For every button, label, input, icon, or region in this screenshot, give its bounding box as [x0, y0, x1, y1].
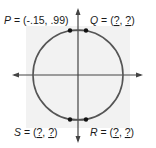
- point-S: [68, 117, 72, 121]
- y-axis-up-arrow-icon: [76, 8, 81, 15]
- label-Q: Q = (?, ?): [90, 14, 135, 26]
- point-Q: [84, 28, 88, 32]
- point-R: [84, 117, 88, 121]
- point-P: [68, 28, 72, 32]
- label-S: S = (?, ?): [14, 126, 58, 138]
- label-R: R = (?, ?): [90, 126, 134, 138]
- label-P: P = (-.15, .99): [4, 14, 69, 26]
- x-axis-left-arrow-icon: [12, 73, 19, 78]
- unit-circle-diagram: P = (-.15, .99) Q = (?, ?) S = (?, ?) R …: [0, 0, 156, 148]
- x-axis-right-arrow-icon: [136, 73, 143, 78]
- y-axis-down-arrow-icon: [76, 136, 81, 143]
